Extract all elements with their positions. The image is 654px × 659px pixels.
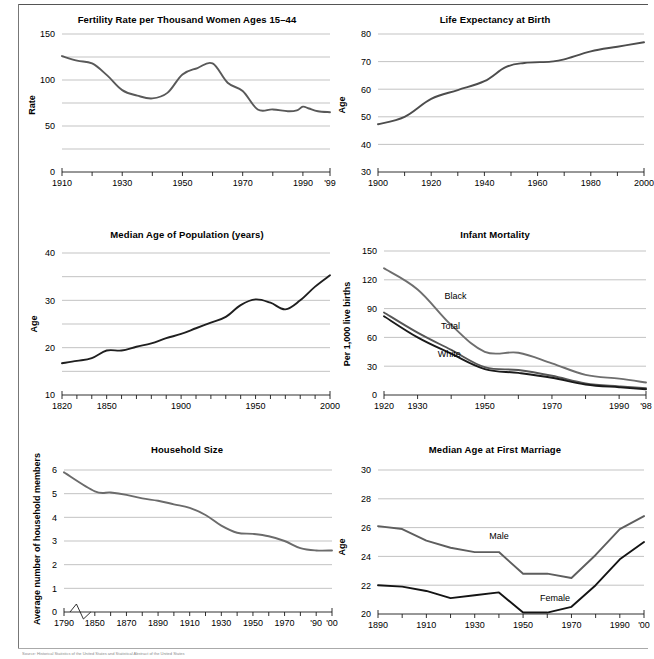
svg-text:1900: 1900: [171, 401, 191, 411]
svg-text:40: 40: [45, 248, 55, 258]
svg-text:1930: 1930: [408, 401, 428, 411]
svg-text:60: 60: [367, 333, 377, 343]
svg-text:1980: 1980: [581, 178, 601, 188]
svg-text:1820: 1820: [52, 401, 72, 411]
svg-text:50: 50: [361, 112, 371, 122]
svg-text:80: 80: [361, 29, 371, 39]
svg-text:1850: 1850: [85, 618, 105, 628]
svg-text:1920: 1920: [374, 401, 394, 411]
plot-area: 1020304018201850190019502000: [18, 219, 342, 434]
chart-panel-median-age-first-marriage: Median Age at First Marriage Age 2022242…: [330, 434, 654, 649]
series-line-household-size: [64, 472, 332, 550]
svg-text:1990: 1990: [609, 401, 629, 411]
svg-text:1950: 1950: [243, 618, 263, 628]
source-note: Source: Historical Statistics of the Uni…: [22, 651, 642, 657]
svg-text:1950: 1950: [513, 620, 533, 630]
plot-area: 030609012015019201930195019701990'98Blac…: [330, 219, 654, 434]
svg-text:1790: 1790: [54, 618, 74, 628]
chart-panel-life-expectancy: Life Expectancy at Birth Age 30405060708…: [330, 4, 654, 219]
series-label-female: Female: [540, 593, 570, 603]
svg-text:1890: 1890: [368, 620, 388, 630]
svg-text:20: 20: [45, 343, 55, 353]
series-line-female: [378, 542, 644, 613]
svg-text:1: 1: [52, 584, 57, 594]
series-line-life-expectancy: [378, 42, 644, 124]
plot-area: 012345617901850187018901910193019501970'…: [18, 434, 342, 649]
svg-text:1950: 1950: [246, 401, 266, 411]
svg-text:30: 30: [361, 465, 371, 475]
chart-panel-household-size: Household Size Average number of househo…: [18, 434, 342, 649]
svg-text:0: 0: [372, 390, 377, 400]
series-line-fertility-rate: [62, 56, 330, 112]
series-label-black: Black: [444, 291, 467, 301]
svg-text:1970: 1970: [561, 620, 581, 630]
svg-text:2: 2: [52, 560, 57, 570]
plot-area: 05010015019101930195019701990'99: [18, 4, 342, 219]
svg-text:24: 24: [361, 552, 371, 562]
svg-text:1960: 1960: [528, 178, 548, 188]
svg-text:150: 150: [40, 29, 55, 39]
series-line-median-age: [62, 275, 330, 363]
svg-text:'00: '00: [638, 620, 650, 630]
chart-panel-infant-mortality: Infant Mortality Per 1,000 live births 0…: [330, 219, 654, 434]
svg-text:90: 90: [367, 304, 377, 314]
plot-area: 202224262830189019101930195019701990'00M…: [330, 434, 654, 649]
svg-text:1970: 1970: [542, 401, 562, 411]
svg-text:30: 30: [45, 296, 55, 306]
svg-text:'98: '98: [640, 401, 652, 411]
svg-text:50: 50: [45, 121, 55, 131]
chart-panel-fertility-rate: Fertility Rate per Thousand Women Ages 1…: [18, 4, 342, 219]
series-line-male: [378, 516, 644, 578]
svg-text:'90: '90: [310, 618, 322, 628]
svg-text:1930: 1930: [112, 178, 132, 188]
chart-grid: Fertility Rate per Thousand Women Ages 1…: [0, 0, 648, 648]
svg-text:1910: 1910: [180, 618, 200, 628]
svg-text:1990: 1990: [293, 178, 313, 188]
svg-text:1910: 1910: [416, 620, 436, 630]
svg-text:30: 30: [367, 362, 377, 372]
svg-text:28: 28: [361, 494, 371, 504]
svg-text:1890: 1890: [148, 618, 168, 628]
svg-text:1950: 1950: [475, 401, 495, 411]
svg-text:6: 6: [52, 465, 57, 475]
svg-text:1970: 1970: [233, 178, 253, 188]
series-label-male: Male: [489, 531, 509, 541]
series-label-white: White: [438, 349, 461, 359]
svg-text:22: 22: [361, 581, 371, 591]
svg-text:1990: 1990: [610, 620, 630, 630]
svg-text:10: 10: [45, 390, 55, 400]
svg-text:1940: 1940: [474, 178, 494, 188]
series-label-total: Total: [441, 321, 460, 331]
svg-text:100: 100: [40, 75, 55, 85]
series-line-black: [384, 268, 646, 382]
svg-text:1930: 1930: [211, 618, 231, 628]
svg-text:1970: 1970: [275, 618, 295, 628]
svg-text:120: 120: [362, 275, 377, 285]
svg-text:4: 4: [52, 513, 57, 523]
svg-text:1950: 1950: [172, 178, 192, 188]
plot-area: 304050607080190019201940196019802000: [330, 4, 654, 219]
svg-text:2000: 2000: [634, 178, 654, 188]
svg-text:30: 30: [361, 167, 371, 177]
svg-text:1900: 1900: [368, 178, 388, 188]
svg-text:1910: 1910: [52, 178, 72, 188]
svg-text:40: 40: [361, 140, 371, 150]
chart-panel-median-age-population: Median Age of Population (years) Age 102…: [18, 219, 342, 434]
svg-text:0: 0: [50, 167, 55, 177]
svg-text:70: 70: [361, 57, 371, 67]
svg-text:1870: 1870: [116, 618, 136, 628]
svg-text:3: 3: [52, 536, 57, 546]
svg-text:60: 60: [361, 85, 371, 95]
svg-text:1930: 1930: [465, 620, 485, 630]
svg-text:26: 26: [361, 523, 371, 533]
svg-text:5: 5: [52, 489, 57, 499]
svg-text:150: 150: [362, 246, 377, 256]
svg-text:1920: 1920: [421, 178, 441, 188]
svg-text:1850: 1850: [97, 401, 117, 411]
svg-text:20: 20: [361, 609, 371, 619]
svg-text:0: 0: [52, 607, 57, 617]
